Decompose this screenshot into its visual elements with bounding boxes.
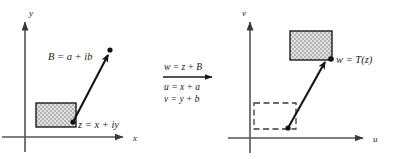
mapping-formula-w: w = z + B	[164, 62, 202, 72]
right-plane-group: v u w = T(z)	[228, 8, 378, 153]
point-z-marker	[70, 119, 75, 124]
right-vector-B	[288, 62, 325, 128]
left-plane-group: y x B = a + ib z = x + iy	[2, 8, 137, 152]
right-shaded-region	[290, 31, 332, 60]
mapping-group: w = z + B u = x + a v = y + b	[163, 62, 212, 104]
left-vector-tip-marker	[107, 47, 112, 52]
point-w-marker	[328, 56, 334, 62]
left-vector-B	[73, 55, 108, 122]
point-z-label: z = x + iy	[77, 119, 119, 130]
mapping-formula-v: v = y + b	[164, 94, 200, 104]
left-y-axis-label: y	[28, 8, 33, 18]
right-v-axis-label: v	[242, 8, 246, 18]
left-x-axis-label: x	[132, 133, 137, 143]
point-w-label: w = T(z)	[336, 54, 373, 66]
diagram-canvas: y x B = a + ib z = x + iy w = z + B u = …	[0, 0, 396, 159]
vector-B-label: B = a + ib	[48, 51, 93, 62]
left-shaded-region	[36, 103, 76, 127]
right-u-axis-label: u	[373, 134, 378, 144]
mapping-formula-u: u = x + a	[164, 82, 200, 92]
right-vector-base-marker	[285, 125, 290, 130]
translation-transformation-figure: y x B = a + ib z = x + iy w = z + B u = …	[0, 0, 396, 159]
